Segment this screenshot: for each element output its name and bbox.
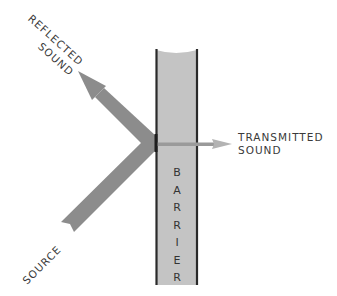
transmitted-label-line2: SOUND [238, 144, 282, 156]
transmitted-label-line1: TRANSMITTED [238, 131, 324, 143]
barrier-letter: R [170, 269, 184, 287]
barrier-letter: A [170, 182, 184, 200]
sound-barrier-diagram: REFLECTED SOUND TRANSMITTED SOUND SOURCE… [0, 0, 337, 296]
barrier-letter: R [170, 217, 184, 235]
barrier-letter: R [170, 199, 184, 217]
barrier-letter: I [170, 234, 184, 252]
incident-reflected-arrow [61, 71, 158, 232]
barrier-letter: B [170, 164, 184, 182]
barrier-label: B A R R I E R [170, 164, 184, 287]
barrier-letter: E [170, 252, 184, 270]
